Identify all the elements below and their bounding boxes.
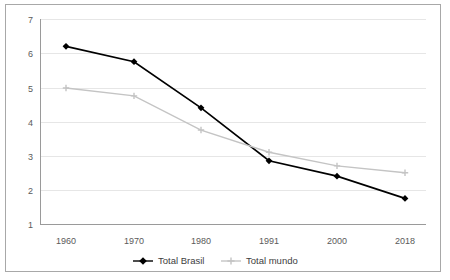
data-point-marker[interactable] [402,170,408,176]
data-point-marker[interactable] [334,163,340,169]
y-tick-label-1: 1 [28,220,33,230]
y-tick-label-4: 4 [28,118,33,128]
x-axis-ticks: 1960 1970 1980 1991 2000 2018 [56,236,415,246]
data-point-marker[interactable] [334,173,341,180]
series-total-mundo [63,85,408,176]
data-point-marker[interactable] [402,195,409,202]
legend-label-total-brasil: Total Brasil [158,255,204,266]
x-tick-label-2018: 2018 [395,236,415,246]
y-tick-label-3: 3 [28,152,33,162]
legend-marker-diamond-icon [139,257,147,265]
series-line [66,88,405,173]
line-chart: 7 6 5 4 3 2 1 1960 1970 1980 1991 2000 2… [6,5,442,273]
y-tick-label-6: 6 [28,49,33,59]
x-tick-label-1991: 1991 [259,236,279,246]
data-point-marker[interactable] [63,43,70,50]
data-point-marker[interactable] [63,85,69,91]
x-tick-label-1980: 1980 [191,236,211,246]
chart-frame: 7 6 5 4 3 2 1 1960 1970 1980 1991 2000 2… [5,4,441,272]
data-point-marker[interactable] [131,93,137,99]
gridlines [40,19,426,190]
legend-label-total-mundo: Total mundo [246,255,298,266]
data-point-marker[interactable] [198,127,204,133]
x-tick-label-1960: 1960 [56,236,76,246]
legend-item-total-mundo[interactable]: Total mundo [221,255,298,266]
chart-legend: Total Brasil Total mundo [133,255,298,266]
x-tick-label-1970: 1970 [124,236,144,246]
y-tick-label-7: 7 [28,15,33,25]
x-tick-label-2000: 2000 [327,236,347,246]
chart-plot-area: 7 6 5 4 3 2 1 1960 1970 1980 1991 2000 2… [6,5,442,273]
legend-marker-plus-icon [227,257,234,264]
y-axis-ticks: 7 6 5 4 3 2 1 [28,15,33,230]
data-point-marker[interactable] [266,149,272,155]
y-tick-label-2: 2 [28,186,33,196]
y-tick-label-5: 5 [28,84,33,94]
legend-item-total-brasil[interactable]: Total Brasil [133,255,204,266]
